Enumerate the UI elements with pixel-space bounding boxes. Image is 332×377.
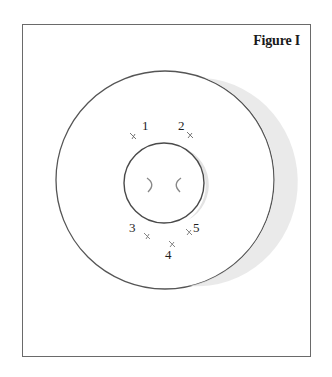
inner-circle: [124, 143, 204, 223]
marker-label: 4: [165, 247, 172, 262]
marker-label: 1: [142, 118, 149, 133]
marker-label: 2: [178, 118, 185, 133]
marker-label: 3: [129, 220, 136, 235]
marker-label: 5: [193, 220, 200, 235]
disc-diagram: 1 2 3 4 5: [0, 0, 332, 377]
